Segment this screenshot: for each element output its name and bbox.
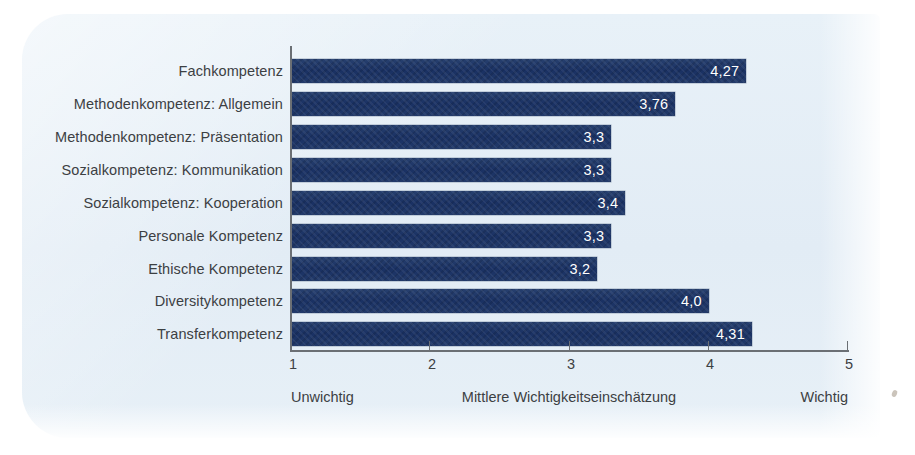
category-label-1: Methodenkompetenz: Allgemein	[74, 97, 283, 112]
bar-value-label-7: 4,0	[681, 294, 702, 309]
category-label-3: Sozialkompetenz: Kommunikation	[62, 163, 283, 178]
axis-caption-left: Unwichtig	[291, 390, 354, 405]
bar-0[interactable]: 4,27	[291, 59, 746, 83]
bar-5[interactable]: 3,3	[291, 224, 611, 248]
x-axis-tick-0	[290, 341, 291, 351]
x-axis-tick-label-4: 5	[845, 357, 853, 372]
axis-caption-right: Wichtig	[800, 390, 848, 405]
bar-value-label-4: 3,4	[597, 196, 618, 211]
category-label-7: Diversitykompetenz	[155, 294, 283, 309]
bar-2[interactable]: 3,3	[291, 125, 611, 149]
bar-4[interactable]: 3,4	[291, 191, 625, 215]
bar-7[interactable]: 4,0	[291, 289, 709, 313]
bar-value-label-3: 3,3	[584, 163, 605, 178]
bar-value-label-8: 4,31	[716, 327, 745, 342]
bar-value-label-2: 3,3	[584, 130, 605, 145]
x-axis-tick-4	[847, 341, 848, 351]
bar-3[interactable]: 3,3	[291, 158, 611, 182]
category-label-2: Methodenkompetenz: Präsentation	[55, 130, 283, 145]
x-axis-tick-2	[569, 341, 570, 351]
bar-8[interactable]: 4,31	[291, 322, 752, 346]
category-label-5: Personale Kompetenz	[138, 229, 283, 244]
x-axis-tick-label-1: 2	[428, 357, 436, 372]
scanned-page: Fachkompetenz Methodenkompetenz: Allgeme…	[0, 0, 915, 455]
category-label-8: Transferkompetenz	[157, 327, 283, 342]
axis-caption-center: Mittlere Wichtigkeitseinschätzung	[462, 390, 676, 405]
x-axis-tick-label-3: 4	[706, 357, 714, 372]
bar-value-label-6: 3,2	[570, 262, 591, 277]
x-axis-tick-3	[708, 341, 709, 351]
x-axis-tick-1	[429, 341, 430, 351]
bar-value-label-0: 4,27	[710, 64, 739, 79]
bar-value-label-1: 3,76	[639, 97, 668, 112]
bar-value-label-5: 3,3	[584, 229, 605, 244]
bar-1[interactable]: 3,76	[291, 92, 675, 116]
category-label-4: Sozialkompetenz: Kooperation	[84, 196, 283, 211]
x-axis-tick-label-2: 3	[567, 357, 575, 372]
y-axis-line	[290, 46, 292, 351]
bar-6[interactable]: 3,2	[291, 257, 597, 281]
x-axis-tick-label-0: 1	[289, 357, 297, 372]
category-label-6: Ethische Kompetenz	[148, 262, 283, 277]
bar-chart: Fachkompetenz Methodenkompetenz: Allgeme…	[0, 0, 915, 455]
category-label-0: Fachkompetenz	[179, 64, 283, 79]
